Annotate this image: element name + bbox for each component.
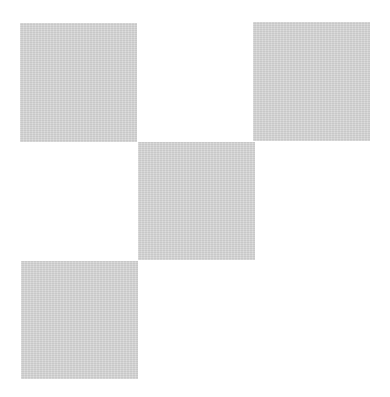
square-top-left: [20, 23, 137, 142]
square-center: [138, 142, 255, 260]
square-bottom-left: [21, 261, 138, 379]
square-top-right: [253, 22, 370, 141]
canvas: [0, 0, 390, 397]
